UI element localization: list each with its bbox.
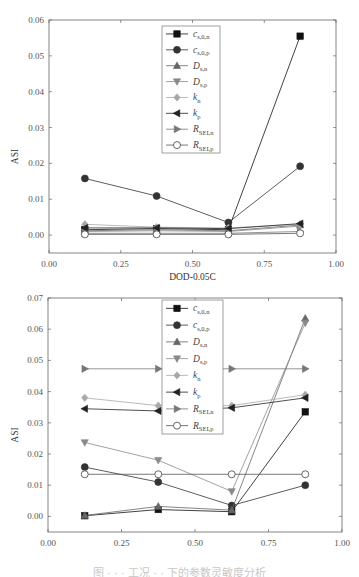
series-c_s0p [81, 163, 303, 226]
x-tick-label: 0.25 [113, 259, 129, 269]
data-point-marker [297, 33, 303, 39]
x-axis-label: DOD-0.05C [169, 272, 216, 280]
x-tick-label: 0.50 [187, 538, 203, 548]
data-point-marker [229, 365, 236, 372]
y-tick-label: 0.04 [28, 87, 44, 97]
data-point-marker [81, 471, 88, 478]
series-line [85, 166, 300, 222]
y-tick-label: 0.05 [27, 355, 43, 365]
asi-chart-dod-0-05c: 0.000.250.500.751.000.000.010.020.030.04… [0, 0, 359, 280]
legend: cs,0,ncs,0,pDs,nDs,pknkpRSEI,nRSEI,p [162, 300, 223, 434]
x-tick-label: 1.00 [328, 259, 344, 269]
legend-marker-icon [174, 322, 181, 329]
legend-marker-icon [174, 142, 181, 149]
data-point-marker [155, 503, 162, 510]
legend-marker-icon [174, 305, 180, 311]
x-tick-label: 0.75 [256, 259, 272, 269]
data-point-marker [302, 365, 309, 372]
data-point-marker [81, 464, 88, 471]
data-point-marker [228, 489, 235, 496]
legend-marker-icon [174, 31, 180, 37]
x-tick-label: 0.75 [261, 538, 277, 548]
series-line [85, 231, 300, 233]
data-point-marker [153, 193, 160, 200]
data-point-marker [302, 471, 309, 478]
data-point-marker [155, 457, 162, 464]
data-point-marker [228, 471, 235, 478]
data-point-marker [81, 175, 88, 182]
figure-caption: 图 · · · 工况 · · 下的参数灵敏度分析 [0, 566, 359, 577]
data-point-marker [81, 231, 88, 238]
y-tick-label: 0.04 [27, 387, 43, 397]
x-tick-label: 1.00 [334, 538, 350, 548]
data-point-marker [155, 471, 162, 478]
data-point-marker [297, 163, 304, 170]
data-point-marker [153, 231, 160, 238]
y-tick-label: 0.03 [28, 123, 44, 133]
chart-canvas-top: 0.000.250.500.751.000.000.010.020.030.04… [0, 0, 359, 280]
asi-chart-dod-2c: 0.000.250.500.751.000.000.010.020.030.04… [0, 280, 359, 550]
y-tick-label: 0.06 [27, 324, 43, 334]
y-tick-label: 0.05 [28, 51, 44, 61]
y-axis-label: ASI [10, 427, 20, 442]
x-tick-label: 0.00 [40, 538, 56, 548]
series-c_s0p [81, 464, 309, 509]
data-point-marker [302, 409, 308, 415]
legend: cs,0,ncs,0,pDs,nDs,pknkpRSEI,nRSEI,p [162, 26, 220, 153]
y-tick-label: 0.01 [27, 480, 43, 490]
x-tick-label: 0.00 [41, 259, 57, 269]
data-point-marker [225, 231, 232, 238]
chart-canvas-bottom: 0.000.250.500.751.000.000.010.020.030.04… [0, 280, 359, 550]
y-tick-label: 0.06 [28, 15, 44, 25]
data-point-marker [297, 230, 304, 237]
y-tick-label: 0.00 [28, 230, 44, 240]
x-tick-label: 0.50 [185, 259, 201, 269]
data-point-marker [155, 479, 162, 486]
data-point-marker [81, 405, 88, 412]
y-tick-label: 0.07 [27, 293, 43, 303]
series-line [85, 467, 306, 505]
data-point-marker [302, 482, 309, 489]
x-tick-label: 0.25 [114, 538, 130, 548]
y-tick-label: 0.02 [27, 449, 43, 459]
y-tick-label: 0.03 [27, 418, 43, 428]
data-point-marker [82, 365, 89, 372]
legend-marker-icon [174, 46, 181, 53]
data-point-marker [82, 394, 88, 401]
y-axis-label: ASI [10, 149, 20, 164]
y-tick-label: 0.02 [28, 158, 44, 168]
y-tick-label: 0.01 [28, 194, 44, 204]
data-point-marker [155, 365, 162, 372]
y-tick-label: 0.00 [27, 511, 43, 521]
legend-marker-icon [174, 422, 181, 429]
series-R_SEIp [81, 471, 309, 478]
